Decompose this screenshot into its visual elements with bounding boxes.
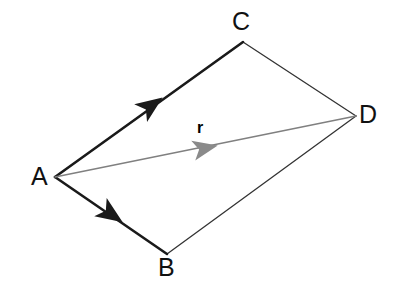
vertex-label-a: A: [31, 164, 48, 189]
vertex-label-c: C: [232, 9, 250, 34]
diagram-canvas: [0, 0, 400, 286]
vector-diagram: A B C D r: [0, 0, 400, 286]
resultant-label-r: r: [197, 120, 203, 136]
vertex-label-d: D: [359, 102, 377, 127]
vertex-label-b: B: [158, 255, 175, 280]
